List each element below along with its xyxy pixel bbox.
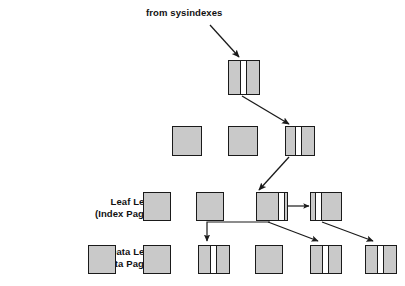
connector-sysindexes-to-root: [210, 25, 239, 57]
data-node-6: [365, 245, 397, 274]
data-node-5-cell-left: [311, 246, 322, 273]
root-node-cell-right: [247, 61, 259, 94]
leaf-node-1-cell: [144, 193, 170, 220]
data-node-6-cell-right: [384, 246, 396, 273]
leaf-node-3-cell-left: [257, 193, 278, 220]
intermediate-node-1: [172, 126, 202, 156]
data-node-3-cell-right: [217, 246, 229, 273]
data-node-3-pointer-cell: [210, 246, 217, 273]
data-node-5-cell-right: [329, 246, 341, 273]
leaf-node-4: [310, 192, 342, 221]
intermediate-node-3-cell-right: [302, 127, 314, 155]
intermediate-node-2: [228, 126, 258, 156]
connector-leaf3-to-data3: [207, 222, 270, 241]
connector-root-to-intermediate: [242, 96, 289, 124]
leaf-node-4-cell-right: [322, 193, 341, 220]
root-node-pointer-cell: [240, 61, 247, 94]
data-node-2-cell: [144, 246, 170, 273]
data-node-6-cell-left: [366, 246, 377, 273]
data-node-5: [310, 245, 342, 274]
data-node-2: [143, 245, 171, 274]
intermediate-node-2-cell: [229, 127, 257, 155]
root-node-cell-left: [229, 61, 240, 94]
data-node-1-cell: [89, 246, 115, 273]
leaf-node-3-pointer-cell: [278, 193, 285, 220]
data-node-3-cell-left: [199, 246, 210, 273]
connector-leaf3-to-data5: [268, 222, 318, 241]
leaf-node-1: [143, 192, 171, 221]
intermediate-node-3: [285, 126, 315, 156]
leaf-level-label: Leaf Level(Index Pages): [48, 196, 158, 220]
connector-intermediate-to-leaf: [259, 157, 289, 190]
connector-leaf4-to-data6: [322, 222, 373, 241]
intermediate-node-3-pointer-cell: [295, 127, 302, 155]
data-node-1: [88, 245, 116, 274]
leaf-node-3-cell-right: [285, 193, 287, 220]
connector-layer: [0, 0, 405, 286]
leaf-node-2-cell: [197, 193, 223, 220]
leaf-node-2: [196, 192, 224, 221]
data-node-4: [255, 245, 283, 274]
root-node: [228, 60, 260, 95]
data-node-4-cell: [256, 246, 282, 273]
leaf-node-4-pointer-cell: [315, 193, 322, 220]
leaf-node-3: [256, 192, 288, 221]
intermediate-node-1-cell: [173, 127, 201, 155]
data-node-5-pointer-cell: [322, 246, 329, 273]
data-node-6-pointer-cell: [377, 246, 384, 273]
intermediate-node-3-cell-left: [286, 127, 295, 155]
index-structure-diagram: from sysindexes Leaf Level(Index Pages) …: [0, 0, 405, 286]
data-node-3: [198, 245, 230, 274]
